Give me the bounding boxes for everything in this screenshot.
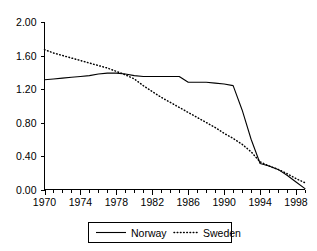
x-tick-label: 1986 <box>177 196 201 208</box>
y-axis-tick-labels: 0.000.400.801.201.602.00 <box>16 16 37 196</box>
legend-label-sweden: Sweden <box>203 227 241 239</box>
chart-canvas: 0.000.400.801.201.602.00 197019741978198… <box>0 0 317 251</box>
legend-label-norway: Norway <box>131 227 167 239</box>
y-tick-label: 1.60 <box>16 50 37 62</box>
x-axis-minor-ticks <box>46 190 306 195</box>
series-line-sweden <box>45 50 306 183</box>
y-tick-label: 2.00 <box>16 16 37 28</box>
series-line-norway <box>45 73 306 189</box>
line-chart: 0.000.400.801.201.602.00 197019741978198… <box>0 0 317 251</box>
x-tick-label: 1974 <box>69 196 93 208</box>
x-tick-label: 1982 <box>141 196 165 208</box>
x-tick-label: 1990 <box>212 196 236 208</box>
x-axis-tick-labels: 19701974197819821986199019941998 <box>33 196 308 208</box>
x-tick-label: 1978 <box>105 196 129 208</box>
y-tick-label: 0.40 <box>16 150 37 162</box>
y-tick-label: 1.20 <box>16 83 37 95</box>
y-tick-label: 0.80 <box>16 117 37 129</box>
y-tick-label: 0.00 <box>16 184 37 196</box>
y-axis-ticks <box>41 23 45 191</box>
x-tick-label: 1970 <box>33 196 57 208</box>
x-tick-label: 1994 <box>248 196 272 208</box>
legend: Norway Sweden <box>89 223 242 243</box>
x-tick-label: 1998 <box>284 196 308 208</box>
